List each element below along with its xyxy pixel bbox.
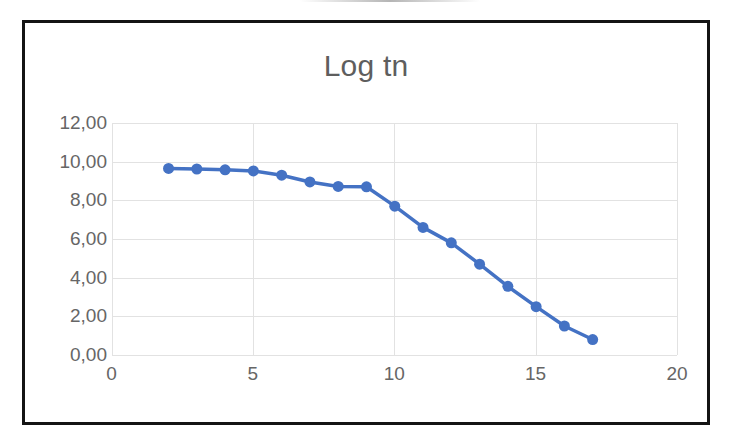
chart-title: Log tn <box>25 49 707 83</box>
y-tick-label: 2,00 <box>70 305 107 327</box>
series-marker <box>474 259 485 270</box>
series-marker <box>247 165 258 176</box>
series-marker <box>389 201 400 212</box>
series-marker <box>304 176 315 187</box>
y-tick-label: 0,00 <box>70 344 107 366</box>
y-tick-label: 12,00 <box>59 112 107 134</box>
series-marker <box>191 164 202 175</box>
line-series-log-tn <box>112 123 678 355</box>
y-tick-label: 8,00 <box>70 189 107 211</box>
series-markers <box>163 163 598 345</box>
series-marker <box>417 222 428 233</box>
plot-area <box>112 123 678 355</box>
x-tick-label: 0 <box>106 363 117 385</box>
chart-frame: Log tn 0,002,004,006,008,0010,0012,00 05… <box>22 20 710 425</box>
series-marker <box>530 301 541 312</box>
series-marker <box>502 281 513 292</box>
series-marker <box>332 181 343 192</box>
series-marker <box>276 170 287 181</box>
x-tick-label: 10 <box>384 363 405 385</box>
y-tick-label: 4,00 <box>70 267 107 289</box>
series-marker <box>360 181 371 192</box>
series-marker <box>163 163 174 174</box>
y-tick-label: 10,00 <box>59 151 107 173</box>
y-axis-tick-labels: 0,002,004,006,008,0010,0012,00 <box>45 123 107 355</box>
series-marker <box>445 237 456 248</box>
x-tick-label: 5 <box>248 363 259 385</box>
y-tick-label: 6,00 <box>70 228 107 250</box>
series-marker <box>587 334 598 345</box>
scan-artifact <box>300 0 480 2</box>
series-marker <box>558 321 569 332</box>
x-tick-label: 20 <box>666 363 687 385</box>
chart-screenshot: Log tn 0,002,004,006,008,0010,0012,00 05… <box>0 0 732 443</box>
x-axis-tick-labels: 05101520 <box>112 363 678 393</box>
gridline-h <box>112 355 678 356</box>
series-line <box>168 168 592 339</box>
series-marker <box>219 164 230 175</box>
x-tick-label: 15 <box>525 363 546 385</box>
